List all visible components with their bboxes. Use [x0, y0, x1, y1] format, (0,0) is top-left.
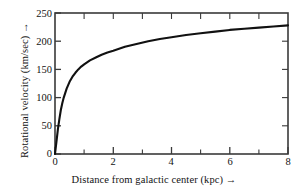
x-tick-label: 2	[103, 156, 123, 167]
x-tick-label: 4	[161, 156, 181, 167]
x-axis-title: Distance from galactic center (kpc) →	[0, 174, 308, 185]
x-tick-label: 0	[45, 156, 65, 167]
rotation-curve-figure: Rotational velocity (km/sec) → 250 200 1…	[0, 0, 308, 194]
x-axis-tick-labels: 0 2 4 6 8	[0, 0, 308, 194]
x-tick-label: 8	[278, 156, 298, 167]
x-tick-label: 6	[220, 156, 240, 167]
